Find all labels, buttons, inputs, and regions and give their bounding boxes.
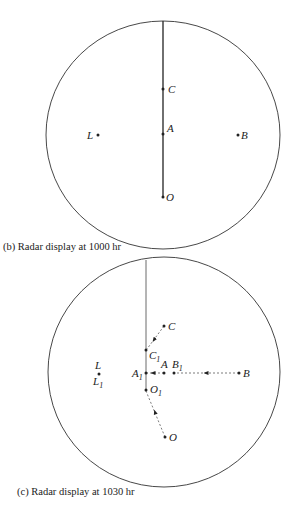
- point-o1-dot: [145, 389, 148, 392]
- point-a1-label: A1: [131, 367, 143, 382]
- point-o-label: O: [169, 431, 177, 443]
- point-o-label: O: [166, 191, 174, 203]
- track-c-to-c1: [147, 326, 164, 349]
- caption-c: (c) Radar display at 1030 hr: [17, 486, 135, 498]
- point-b-dot: [238, 372, 241, 375]
- point-l1-label: L1: [92, 375, 103, 390]
- point-b-label: B: [243, 367, 250, 379]
- point-o1-label: O1: [150, 383, 162, 398]
- point-c-label: C: [168, 320, 176, 332]
- point-a-dot: [162, 133, 165, 136]
- point-c1-label: C1: [149, 349, 160, 364]
- point-l-dot: [97, 134, 100, 137]
- point-a-dot: [163, 372, 166, 375]
- point-b-label: B: [241, 129, 248, 141]
- point-a1-dot: [145, 372, 148, 375]
- point-a-label: A: [160, 358, 168, 370]
- point-c1-dot: [145, 349, 148, 352]
- point-b1-label: B1: [172, 358, 183, 373]
- point-o-dot: [162, 196, 165, 199]
- point-c-dot: [162, 88, 165, 91]
- point-o-dot: [164, 436, 167, 439]
- point-l-label: L: [94, 359, 101, 371]
- point-b1-dot: [173, 372, 176, 375]
- point-l-label: L: [86, 129, 93, 141]
- caption-b: (b) Radar display at 1000 hr: [3, 241, 122, 253]
- point-b-dot: [237, 134, 240, 137]
- point-c-dot: [163, 325, 166, 328]
- point-c-label: C: [168, 83, 176, 95]
- track-o-to-o1: [146, 391, 165, 437]
- radar-display-c: C C1 A1 A B1 B O1 O L L1 (c) Radar displ…: [17, 257, 280, 498]
- radar-diagram: C A O L B (b) Radar display at 1000 hr C…: [0, 0, 306, 507]
- point-a-label: A: [166, 122, 174, 134]
- radar-display-b: C A O L B (b) Radar display at 1000 hr: [3, 21, 280, 253]
